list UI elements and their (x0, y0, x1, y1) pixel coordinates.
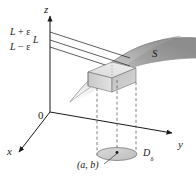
disk-label-subscript: δ (150, 155, 153, 163)
disk-ellipse (97, 148, 137, 161)
limit-definition-figure: z y x 0 L + ε L L − ε S (a, b) Dδ (0, 0, 196, 177)
label-L-plus-epsilon: L + ε (10, 27, 30, 37)
label-L-plus-epsilon-op: + (16, 26, 27, 37)
level-line-L (50, 40, 130, 66)
y-axis-label: y (178, 139, 183, 150)
label-L: L (33, 35, 39, 45)
x-axis-label: x (7, 146, 12, 157)
label-L-minus-epsilon-eps: ε (26, 41, 30, 52)
center-point-marker (116, 151, 119, 154)
label-L-plus-epsilon-eps: ε (26, 26, 30, 37)
epsilon-slab-box (88, 62, 136, 92)
origin-label: 0 (38, 110, 44, 121)
surface-label-S: S (152, 48, 158, 59)
z-axis-label: z (44, 4, 48, 15)
y-axis (50, 112, 172, 133)
disk-label-D-delta: Dδ (143, 148, 154, 161)
projection-lines (97, 80, 136, 156)
x-axis (19, 112, 50, 152)
label-L-main: L (33, 34, 39, 45)
level-line-L-plus-eps (50, 32, 130, 58)
disk-d-delta (97, 148, 137, 165)
label-L-minus-epsilon-op: − (16, 41, 27, 52)
label-L-minus-epsilon: L − ε (10, 42, 30, 52)
point-label-ab: (a, b) (77, 160, 99, 170)
